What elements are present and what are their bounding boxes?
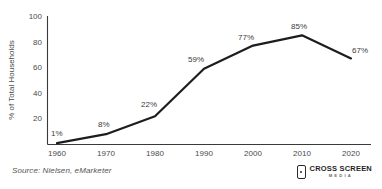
brand-primary-text: CROSS SCREEN xyxy=(310,165,372,173)
brand-text-wrap: CROSS SCREEN MEDIA xyxy=(310,165,372,178)
point-label-1990: 59% xyxy=(188,55,204,64)
y-tick-label-60: 60 xyxy=(33,63,42,72)
x-tick-label-1970: 1970 xyxy=(97,149,115,158)
y-axis-title: % of Total Households xyxy=(7,40,16,119)
source-note: Source: Nielsen, eMarketer xyxy=(12,166,112,175)
x-tick-label-2020: 2020 xyxy=(342,149,360,158)
point-label-1980: 22% xyxy=(141,100,157,109)
x-tick-label-2010: 2010 xyxy=(293,149,311,158)
line-chart: 100 80 60 40 20 % of Total Households 19… xyxy=(0,0,382,189)
x-tick-label-1980: 1980 xyxy=(146,149,164,158)
brand-logo: CROSS SCREEN MEDIA xyxy=(297,165,372,179)
point-label-1970: 8% xyxy=(98,120,110,129)
y-tick-label-100: 100 xyxy=(29,12,43,21)
point-label-2000: 77% xyxy=(238,33,254,42)
brand-secondary-text: MEDIA xyxy=(310,174,372,178)
chart-screenshot: 100 80 60 40 20 % of Total Households 19… xyxy=(0,0,382,189)
y-tick-label-80: 80 xyxy=(33,38,42,47)
point-label-2020: 67% xyxy=(352,46,368,55)
y-tick-label-20: 20 xyxy=(33,114,42,123)
x-tick-label-1960: 1960 xyxy=(48,149,66,158)
x-tick-label-2000: 2000 xyxy=(244,149,262,158)
point-label-2010: 85% xyxy=(291,22,307,31)
mobile-device-icon xyxy=(297,165,306,179)
point-label-1960: 1% xyxy=(51,129,63,138)
x-tick-label-1990: 1990 xyxy=(195,149,213,158)
y-tick-label-40: 40 xyxy=(33,89,42,98)
